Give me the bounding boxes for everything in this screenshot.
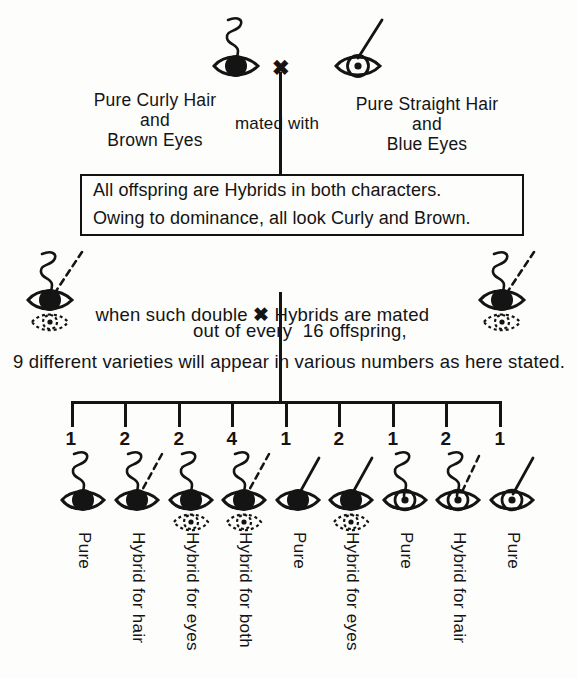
offspring-column: 1 Pure [487,428,541,450]
curly-hair-brown-eye-icon [206,14,270,88]
bracket-tick-2 [124,401,127,427]
offspring-count: 1 [273,428,299,450]
offspring-icon-curly-blue [382,450,440,524]
offspring-count: 2 [433,428,459,450]
bracket-tick-7 [392,401,395,427]
offspring-count: 2 [112,428,138,450]
offspring-box-line-1: All offspring are Hybrids in both charac… [82,176,522,204]
straight-hair-blue-eye-icon [330,14,400,88]
offspring-count: 2 [166,428,192,450]
offspring-label: Pure [503,532,523,569]
offspring-icon-curlyhybrid-brown [114,450,176,524]
offspring-label: Pure [289,532,309,569]
offspring-icon-curly-brownhybrid [168,450,226,542]
offspring-box-line-2: Owing to dominance, all look Curly and B… [82,204,522,232]
genetics-diagram: ✖ Pure Curly Hair and Brown Eyes Pure St… [0,0,578,678]
mated-with-label: mated with [222,114,332,134]
offspring-count: 1 [58,428,84,450]
offspring-label: Hybrid for hair [449,532,469,643]
offspring-label: Hybrid for both [235,532,255,648]
offspring-column: 2 Hybrid for hair [112,428,166,450]
middle-line-3: 9 different varieties will appear in var… [2,351,576,373]
offspring-count: 2 [326,428,352,450]
bracket-tick-6 [338,401,341,427]
offspring-label: Pure [74,532,94,569]
middle-line-2: out of every 16 offspring, [120,320,480,342]
offspring-icon-curly-brown [60,450,118,524]
offspring-count: 1 [380,428,406,450]
offspring-column: 4 Hybrid for both [219,428,273,450]
parent-right-caption: Pure Straight Hair and Blue Eyes [312,94,542,154]
offspring-column: 1 Pure [58,428,112,450]
bracket-tick-4 [231,401,234,427]
offspring-count: 1 [487,428,513,450]
offspring-label: Hybrid for eyes [182,532,202,651]
offspring-label: Pure [396,532,416,569]
offspring-icon-straight-brownhybrid [328,450,386,542]
parent-cross-connector [279,72,282,174]
offspring-icon-curlyhybrid-brownhybrid [221,450,283,542]
bracket-tick-1 [71,401,74,427]
offspring-icon-straight-blue [489,450,547,524]
offspring-count: 4 [219,428,245,450]
bracket-tick-5 [285,401,288,427]
offspring-label: Hybrid for eyes [342,532,362,651]
offspring-column: 1 Pure [380,428,434,450]
offspring-column: 1 Pure [273,428,327,450]
bracket-tick-9 [499,401,502,427]
hybrid-cross-connector [279,292,282,402]
offspring-column: 2 Hybrid for eyes [326,428,380,450]
offspring-label: Hybrid for hair [128,532,148,643]
offspring-icon-straight-brown [275,450,333,524]
offspring-column: 2 Hybrid for hair [433,428,487,450]
offspring-column: 2 Hybrid for eyes [166,428,220,450]
offspring-icon-curlyhybrid-blue [435,450,497,524]
bracket-tick-3 [178,401,181,427]
bracket-tick-8 [445,401,448,427]
offspring-statement-box: All offspring are Hybrids in both charac… [80,174,524,236]
